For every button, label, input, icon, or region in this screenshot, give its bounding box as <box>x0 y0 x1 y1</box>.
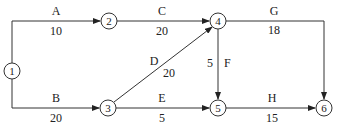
activity-g-duration: 18 <box>268 23 280 37</box>
activity-a-duration: 10 <box>50 24 62 38</box>
activity-h-name: H <box>268 91 277 105</box>
activity-f-name: F <box>224 56 231 70</box>
activity-b-duration: 20 <box>50 111 62 125</box>
activity-e-name: E <box>158 91 165 105</box>
node-6-label: 6 <box>321 102 327 114</box>
node-3: 3 <box>100 100 116 116</box>
node-5: 5 <box>210 100 226 116</box>
network-diagram: A 10 B 20 C 20 D 20 E 5 F 5 G 18 H 15 1 … <box>0 0 338 135</box>
activity-c-name: C <box>158 4 166 18</box>
activity-g-name: G <box>270 4 279 18</box>
node-3-label: 3 <box>105 102 111 114</box>
node-1: 1 <box>4 63 20 79</box>
node-2: 2 <box>101 13 117 29</box>
activity-h-duration: 15 <box>266 111 278 125</box>
node-5-label: 5 <box>215 102 221 114</box>
node-6: 6 <box>316 100 332 116</box>
node-2-label: 2 <box>106 15 112 27</box>
node-1-label: 1 <box>9 65 15 77</box>
activity-c-duration: 20 <box>156 24 168 38</box>
activity-d-name: D <box>150 54 159 68</box>
activity-d-duration: 20 <box>163 66 175 80</box>
activity-a-name: A <box>52 4 61 18</box>
node-4: 4 <box>210 13 226 29</box>
node-4-label: 4 <box>215 15 221 27</box>
activity-e-duration: 5 <box>159 111 165 125</box>
activity-f-duration: 5 <box>207 56 213 70</box>
activity-b-name: B <box>52 91 60 105</box>
